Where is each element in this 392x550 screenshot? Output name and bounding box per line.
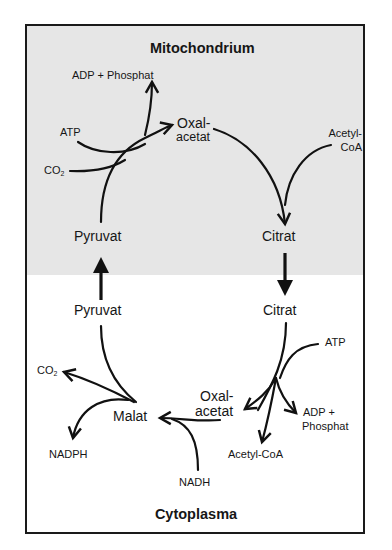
label-adp-phosphat-mito: ADP + Phosphat bbox=[72, 70, 153, 82]
pathway-arrows bbox=[0, 0, 392, 550]
label-pyruvat-cyto: Pyruvat bbox=[74, 303, 121, 318]
label-malat-cyto: Malat bbox=[113, 409, 147, 424]
label-acetyl-coa-cyto: Acetyl-CoA bbox=[228, 449, 283, 461]
label-nadph-cyto: NADPH bbox=[49, 449, 88, 461]
arrow-to-adp-phosphat-cyto bbox=[276, 378, 296, 413]
label-acetyl-mito: Acetyl- bbox=[310, 128, 362, 140]
arrow-pyruvat-to-oxalacetat bbox=[101, 125, 172, 222]
arrow-nadh-in bbox=[172, 419, 198, 470]
label-oxal-mito: Oxal- bbox=[177, 116, 210, 131]
label-co2-mito: CO2 bbox=[44, 165, 64, 177]
mitochondrium-title: Mitochondrium bbox=[150, 41, 242, 56]
arrow-co2-out bbox=[64, 372, 134, 402]
cytoplasma-title: Cytoplasma bbox=[150, 507, 242, 522]
arrow-malat-to-pyruvat bbox=[101, 326, 136, 402]
label-atp-mito: ATP bbox=[60, 127, 81, 139]
label-acetat-cyto: acetat bbox=[195, 404, 233, 419]
label-adp-cyto: ADP + bbox=[303, 407, 335, 419]
label-citrat-mito: Citrat bbox=[262, 229, 295, 244]
label-acetat-mito: acetat bbox=[176, 131, 210, 144]
arrow-oxalacetat-to-citrat bbox=[214, 129, 285, 224]
arrow-atp-in-cyto bbox=[280, 344, 318, 378]
label-phosphat-cyto: Phosphat bbox=[302, 421, 348, 433]
label-coa-mito: CoA bbox=[310, 142, 362, 154]
label-co2-cyto: CO2 bbox=[37, 365, 57, 377]
arrow-adp-phosphat-out bbox=[145, 82, 152, 135]
label-nadh-cyto: NADH bbox=[179, 477, 210, 489]
label-pyruvat-mito: Pyruvat bbox=[74, 229, 121, 244]
arrow-acetyl-coa-in bbox=[285, 145, 331, 205]
label-citrat-cyto: Citrat bbox=[263, 303, 296, 318]
label-atp-cyto: ATP bbox=[325, 337, 346, 349]
label-oxal-cyto: Oxal- bbox=[200, 389, 233, 404]
